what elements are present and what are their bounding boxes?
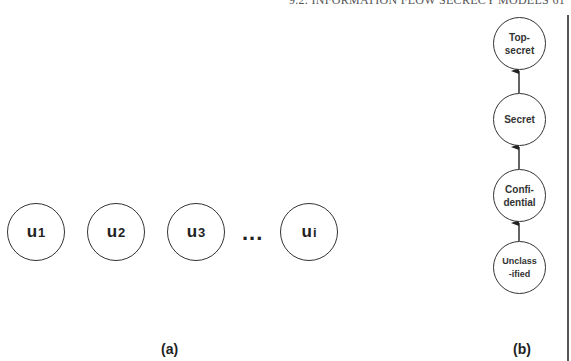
level-label: Confi- dential [503,183,535,209]
level-arrows [0,0,571,361]
level-label: Top- secret [505,31,534,57]
level-node-secret: Secret [493,93,546,146]
level-node-top-secret: Top- secret [493,17,546,70]
level-label: Unclass -ified [502,255,537,281]
level-node-unclassified: Unclass -ified [493,241,546,294]
level-node-confidential: Confi- dential [493,169,546,222]
caption-b: (b) [513,341,531,357]
level-label: Secret [504,113,535,126]
